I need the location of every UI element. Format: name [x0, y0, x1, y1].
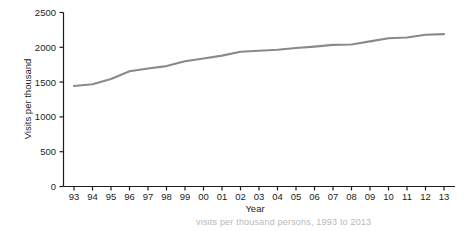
x-axis-tick-label: 98 [161, 191, 172, 202]
x-axis-tick-label: 10 [383, 191, 394, 202]
y-axis-tick-label: 1000 [35, 111, 56, 122]
x-axis-tick-label: 93 [69, 191, 80, 202]
x-axis-ticks [74, 187, 444, 191]
x-axis-tick-label: 04 [272, 191, 283, 202]
x-axis-tick-labels: 9394959697989900010203040506070809101112… [69, 191, 450, 202]
y-axis-tick-label: 500 [40, 146, 56, 157]
y-axis-title: Visits per thousand [22, 59, 33, 140]
x-axis-tick-label: 13 [439, 191, 450, 202]
y-axis-tick-label: 2000 [35, 42, 56, 53]
x-axis-title: Year [245, 203, 264, 214]
x-axis-tick-label: 94 [87, 191, 98, 202]
line-chart: 05001000150020002500 9394959697989900010… [0, 0, 471, 231]
x-axis-tick-label: 00 [198, 191, 209, 202]
x-axis-tick-label: 99 [180, 191, 191, 202]
x-axis-tick-label: 02 [235, 191, 246, 202]
x-axis-tick-label: 96 [124, 191, 135, 202]
x-axis-tick-label: 05 [291, 191, 302, 202]
x-axis-tick-label: 07 [328, 191, 339, 202]
x-axis-tick-label: 12 [420, 191, 431, 202]
y-axis-tick-label: 2500 [35, 7, 56, 18]
x-axis-tick-label: 08 [346, 191, 357, 202]
x-axis-tick-label: 03 [254, 191, 265, 202]
y-axis-tick-label: 1500 [35, 77, 56, 88]
x-axis-tick-label: 01 [217, 191, 228, 202]
x-axis-tick-label: 95 [106, 191, 117, 202]
partial-caption: visits per thousand persons, 1993 to 201… [196, 219, 371, 227]
y-axis-tick-label: 0 [51, 181, 56, 192]
x-axis-tick-label: 09 [365, 191, 376, 202]
chart-figure: 05001000150020002500 9394959697989900010… [0, 0, 471, 231]
x-axis-tick-label: 11 [402, 191, 412, 202]
x-axis-tick-label: 97 [143, 191, 154, 202]
x-axis-tick-label: 06 [309, 191, 320, 202]
caption-strip: visits per thousand persons, 1993 to 201… [0, 219, 471, 231]
